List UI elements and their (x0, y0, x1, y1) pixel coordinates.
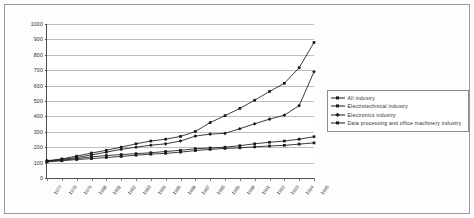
x-axis-tick-mark (62, 178, 63, 181)
data-point-marker (253, 142, 256, 145)
x-axis-tick-mark (121, 178, 122, 181)
legend-item-all-industry[interactable]: All industry (331, 94, 465, 103)
legend-label: All industry (348, 95, 375, 101)
data-point-marker (223, 132, 227, 136)
plot-area: 01002003004005006007008009001000 1977197… (46, 24, 314, 179)
series-4 (46, 41, 316, 162)
x-axis-tick-mark (92, 178, 93, 181)
data-point-marker (179, 139, 183, 143)
x-axis-tick-label: 1979 (82, 185, 92, 196)
data-point-marker (298, 66, 301, 69)
data-point-marker (135, 142, 138, 145)
data-point-marker (179, 135, 182, 138)
x-axis-tick-mark (240, 178, 241, 181)
series-1 (46, 142, 316, 164)
x-axis-tick-label: 1987 (201, 185, 211, 196)
data-point-marker (313, 142, 316, 145)
data-point-marker (120, 153, 123, 156)
data-point-marker (149, 143, 153, 147)
x-axis-tick-mark (47, 178, 48, 181)
data-point-marker (90, 152, 93, 155)
data-point-marker (208, 132, 212, 136)
data-point-marker (268, 117, 272, 121)
data-point-marker (194, 147, 197, 150)
x-axis-tick-mark (314, 178, 315, 181)
data-point-marker (313, 41, 316, 44)
y-axis-tick-label: 300 (34, 129, 43, 135)
x-axis-tick-label: 1981 (112, 185, 122, 196)
x-axis-tick-label: 1995 (320, 185, 330, 196)
x-axis-tick-mark (255, 178, 256, 181)
x-axis-tick-label: 1983 (142, 185, 152, 196)
data-point-marker (164, 150, 167, 153)
y-axis-tick-label: 700 (34, 67, 43, 73)
data-point-marker (60, 158, 63, 161)
y-axis-tick-label: 100 (34, 160, 43, 166)
x-axis-tick-label: 1982 (127, 185, 137, 196)
legend-item-data-processing-industry[interactable]: Data processing and office machinery ind… (331, 119, 465, 128)
data-point-marker (75, 155, 78, 158)
series-layer (47, 24, 314, 178)
x-axis-tick-label: 1985 (171, 185, 181, 196)
series-line (47, 42, 314, 160)
legend-item-electrotechnical-industry[interactable]: Electrotechnical industry (331, 102, 465, 111)
legend-marker-diamond-icon (331, 111, 345, 119)
data-point-marker (149, 151, 152, 154)
x-axis-tick-label: 1988 (216, 185, 226, 196)
x-axis-tick-mark (284, 178, 285, 181)
data-point-marker (238, 127, 242, 131)
data-point-marker (283, 140, 286, 143)
x-axis-tick-mark (151, 178, 152, 181)
x-axis-tick-mark (136, 178, 137, 181)
data-point-marker (194, 130, 197, 133)
data-point-marker (253, 146, 256, 149)
data-point-marker (268, 145, 271, 148)
data-point-marker (253, 122, 257, 126)
data-point-marker (135, 152, 138, 155)
x-axis-tick-label: 1986 (186, 185, 196, 196)
x-axis-tick-label: 1984 (157, 185, 167, 196)
x-axis-tick-label: 1978 (68, 185, 78, 196)
data-point-marker (179, 149, 182, 152)
screenshot-page: 01002003004005006007008009001000 1977197… (0, 0, 474, 218)
plot-wrapper: 01002003004005006007008009001000 1977197… (13, 13, 333, 215)
data-point-marker (313, 135, 316, 138)
legend-label: Data processing and office machinery ind… (348, 120, 462, 126)
x-axis-tick-label: 1992 (275, 185, 285, 196)
legend-label: Electronics industry (348, 112, 396, 118)
data-point-marker (283, 82, 286, 85)
data-point-marker (149, 140, 152, 143)
y-axis-tick-label: 600 (34, 83, 43, 89)
data-point-marker (120, 146, 123, 149)
legend-label: Electrotechnical industry (348, 103, 408, 109)
x-axis-tick-mark (166, 178, 167, 181)
x-axis-tick-label: 1977 (53, 185, 63, 196)
legend-marker-square-icon (331, 119, 345, 127)
data-point-marker (224, 114, 227, 117)
x-axis-tick-mark (195, 178, 196, 181)
data-point-marker (194, 134, 198, 138)
x-axis-tick-label: 1980 (97, 185, 107, 196)
x-axis-tick-mark (210, 178, 211, 181)
data-point-marker (253, 99, 256, 102)
data-point-marker (298, 143, 301, 146)
y-axis-tick-label: 800 (34, 52, 43, 58)
y-axis-tick-label: 200 (34, 144, 43, 150)
x-axis-tick-label: 1991 (260, 185, 270, 196)
chart-legend: All industry Electrotechnical industry E… (327, 90, 469, 132)
data-point-marker (268, 90, 271, 93)
y-axis-tick-label: 400 (34, 113, 43, 119)
data-point-marker (268, 141, 271, 144)
x-axis-tick-mark (106, 178, 107, 181)
series-line (47, 72, 314, 161)
chart-figure: 01002003004005006007008009001000 1977197… (13, 13, 471, 215)
data-point-marker (283, 144, 286, 147)
legend-marker-square-icon (331, 94, 345, 102)
x-axis-tick-mark (299, 178, 300, 181)
legend-item-electronics-industry[interactable]: Electronics industry (331, 111, 465, 120)
x-axis-tick-mark (181, 178, 182, 181)
data-point-marker (238, 144, 241, 147)
x-axis-tick-label: 1993 (290, 185, 300, 196)
y-axis-tick-label: 0 (40, 175, 43, 181)
data-point-marker (46, 159, 49, 162)
